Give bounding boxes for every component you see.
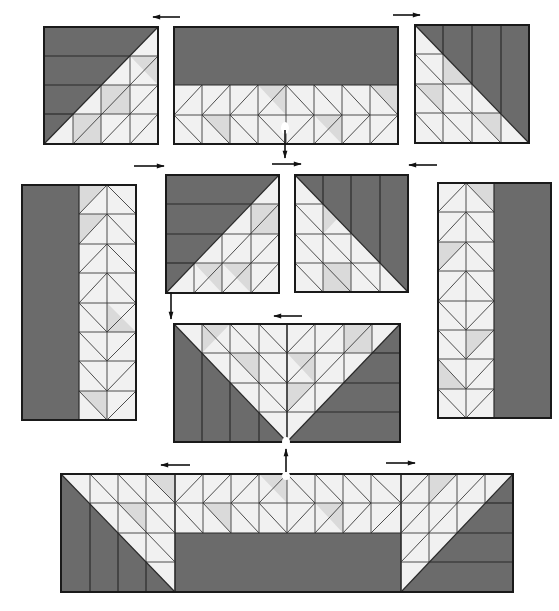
block-row4-bottom bbox=[61, 474, 513, 592]
block-row1-left bbox=[44, 27, 158, 144]
block-row2-center-left bbox=[166, 175, 279, 293]
block-row2-center-right bbox=[295, 175, 408, 292]
block-row2-left-tall bbox=[22, 185, 136, 420]
block-row2-right-tall bbox=[438, 183, 551, 418]
block-row3-center bbox=[174, 324, 400, 442]
quilt-diagram bbox=[0, 0, 559, 611]
block-row1-right bbox=[415, 25, 529, 143]
